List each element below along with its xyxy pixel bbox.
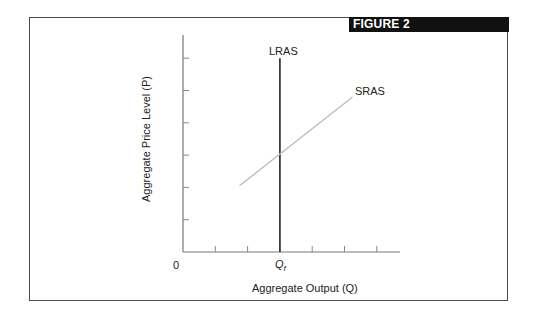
qf-tick-label: Qf xyxy=(275,258,286,273)
sras-label: SRAS xyxy=(355,85,385,97)
qf-main: Q xyxy=(275,258,284,270)
lras-label: LRAS xyxy=(269,45,298,57)
y-axis-label: Aggregate Price Level (P) xyxy=(140,76,152,202)
chart-plot-area xyxy=(0,0,535,324)
origin-label: 0 xyxy=(173,259,179,271)
x-axis-label: Aggregate Output (Q) xyxy=(252,282,358,294)
y-axis-ticks xyxy=(183,58,189,220)
sras-line xyxy=(240,97,353,186)
x-axis-ticks xyxy=(215,246,376,252)
qf-subscript: f xyxy=(284,264,286,273)
